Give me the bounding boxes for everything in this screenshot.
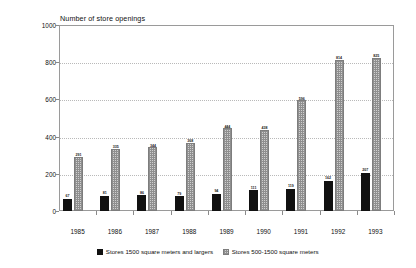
legend-item[interactable]: Stores 1500 square meters and largers <box>97 248 213 255</box>
y-axis-tick-mark <box>55 62 59 63</box>
bar-value-label: 344 <box>150 144 156 148</box>
bars-layer: 6729181335863447936894444111438119596162… <box>59 25 394 211</box>
bar-value-label: 825 <box>373 54 379 58</box>
x-axis-label-1987: 1987 <box>145 228 159 235</box>
x-axis-label-1990: 1990 <box>257 228 271 235</box>
bar-large-stores: 67 <box>63 199 72 211</box>
bar-group: 94444 <box>208 25 245 211</box>
bar-value-label: 207 <box>362 168 368 172</box>
bar-medium-stores: 335 <box>111 149 120 211</box>
bar-medium-stores: 344 <box>148 147 157 211</box>
bar-group: 119596 <box>282 25 319 211</box>
legend-swatch-dark-icon <box>97 249 103 255</box>
chart-title: Number of store openings <box>60 14 145 23</box>
y-axis-tick-label: 200 <box>22 170 56 177</box>
x-axis-tick-mark <box>394 211 395 215</box>
y-axis-tick-label: 800 <box>22 59 56 66</box>
bar-value-label: 81 <box>103 191 107 195</box>
bar-value-label: 162 <box>325 176 331 180</box>
bar-medium-stores: 825 <box>372 58 381 211</box>
x-axis-tick-mark <box>96 211 97 215</box>
bar-group: 162814 <box>320 25 357 211</box>
x-axis-tick-mark <box>133 211 134 215</box>
bar-large-stores: 79 <box>175 196 184 211</box>
bar-group: 86344 <box>133 25 170 211</box>
bar-group: 79368 <box>171 25 208 211</box>
y-axis-tick-mark <box>55 174 59 175</box>
bar-value-label: 94 <box>214 189 218 193</box>
y-axis-tick-label: 1000 <box>22 22 56 29</box>
bar-value-label: 444 <box>224 125 230 129</box>
x-axis-label-1988: 1988 <box>182 228 196 235</box>
x-axis-label-1986: 1986 <box>108 228 122 235</box>
y-axis-tick-label: 0 <box>22 208 56 215</box>
chart-container: Number of store openings 020040060080010… <box>0 0 416 268</box>
bar-medium-stores: 368 <box>186 143 195 211</box>
bar-value-label: 67 <box>66 194 70 198</box>
y-axis-tick-mark <box>55 137 59 138</box>
bar-medium-stores: 444 <box>223 128 232 211</box>
legend-label: Stores 1500 square meters and largers <box>106 248 213 255</box>
x-axis-label-1992: 1992 <box>331 228 345 235</box>
x-axis-label-1993: 1993 <box>368 228 382 235</box>
x-axis-label-1989: 1989 <box>219 228 233 235</box>
y-axis-tick-label: 400 <box>22 133 56 140</box>
bar-value-label: 438 <box>262 126 268 130</box>
bar-medium-stores: 438 <box>260 130 269 211</box>
bar-medium-stores: 291 <box>74 157 83 211</box>
legend-label: Stores 500-1500 square meters <box>232 248 319 255</box>
x-axis-label-1985: 1985 <box>71 228 85 235</box>
y-axis-tick-mark <box>55 99 59 100</box>
bar-large-stores: 119 <box>286 189 295 211</box>
bar-value-label: 596 <box>299 97 305 101</box>
bar-group: 207825 <box>357 25 394 211</box>
x-axis-tick-mark <box>320 211 321 215</box>
x-axis-tick-mark <box>245 211 246 215</box>
bar-large-stores: 94 <box>212 194 221 211</box>
bar-group: 111438 <box>245 25 282 211</box>
bar-value-label: 111 <box>251 186 257 190</box>
y-axis-tick-mark <box>55 25 59 26</box>
chart-legend: Stores 1500 square meters and largersSto… <box>0 248 416 255</box>
bar-large-stores: 86 <box>137 195 146 211</box>
bar-value-label: 119 <box>288 184 294 188</box>
bar-group: 67291 <box>59 25 96 211</box>
bar-value-label: 335 <box>113 145 119 149</box>
bar-value-label: 814 <box>336 56 342 60</box>
bar-large-stores: 81 <box>100 196 109 211</box>
y-axis: 02004006008001000 <box>16 25 56 211</box>
bar-medium-stores: 596 <box>297 100 306 211</box>
x-axis-labels: 198519861987198819891990199119921993 <box>59 228 394 240</box>
x-axis-tick-mark <box>282 211 283 215</box>
bar-large-stores: 162 <box>324 181 333 211</box>
bar-large-stores: 111 <box>249 190 258 211</box>
bar-value-label: 79 <box>177 192 181 196</box>
bar-group: 81335 <box>96 25 133 211</box>
legend-swatch-hatched-icon <box>223 249 229 255</box>
y-axis-tick-label: 600 <box>22 96 56 103</box>
bar-medium-stores: 814 <box>335 60 344 211</box>
x-axis-label-1991: 1991 <box>294 228 308 235</box>
x-axis-tick-mark <box>171 211 172 215</box>
bar-value-label: 86 <box>140 191 144 195</box>
bar-value-label: 368 <box>187 139 193 143</box>
legend-item[interactable]: Stores 500-1500 square meters <box>223 248 319 255</box>
bar-value-label: 291 <box>76 153 82 157</box>
x-axis-tick-mark <box>357 211 358 215</box>
x-axis-tick-mark <box>208 211 209 215</box>
bar-large-stores: 207 <box>361 173 370 212</box>
y-axis-tick-mark <box>55 211 59 212</box>
